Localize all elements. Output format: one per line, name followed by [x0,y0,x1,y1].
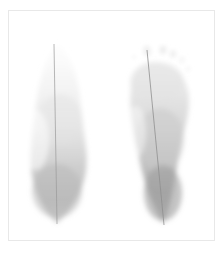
footprint-scan-image [0,0,224,253]
right-forefoot-pressure-zone [130,62,184,102]
toe-speck-left-mark [132,55,136,59]
left-arch-lightening [23,110,49,170]
footprint-scan-viewport [0,0,224,253]
right-arch-lightening [126,106,146,158]
